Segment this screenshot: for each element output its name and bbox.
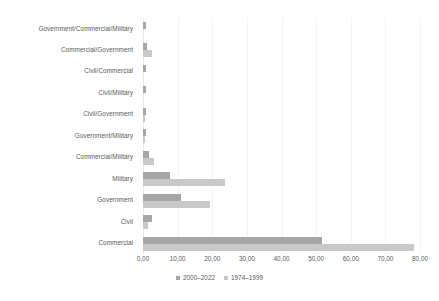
legend-item[interactable]: 2000–2022 — [176, 275, 215, 281]
category-label-row: Commercial/Government — [0, 39, 138, 60]
x-axis-tick-labels: 0,0010,0020,0030,0040,0050,0060,0070,008… — [143, 256, 420, 268]
plot-wrapper: Government/Commercial/MilitaryCommercial… — [0, 0, 439, 265]
category-label-row: Government/Military — [0, 125, 138, 146]
legend-swatch-icon — [176, 276, 180, 280]
x-tick-label: 50,00 — [308, 256, 324, 262]
category-label-row: Civil — [0, 211, 138, 232]
legend-item[interactable]: 1974–1999 — [224, 275, 263, 281]
category-label-row: Government/Commercial/Military — [0, 18, 138, 39]
bar-series-group — [143, 18, 420, 254]
x-tick-label: 0,00 — [137, 256, 149, 262]
bar-row — [143, 147, 420, 168]
category-label: Commercial/Government — [61, 47, 133, 53]
category-label-row: Commercial/Military — [0, 147, 138, 168]
category-label: Commercial/Military — [76, 154, 133, 160]
bar-row — [143, 82, 420, 103]
legend-swatch-icon — [224, 276, 228, 280]
bar-row — [143, 61, 420, 82]
bar-row — [143, 39, 420, 60]
bar-row — [143, 211, 420, 232]
bar-series-b[interactable] — [143, 244, 414, 251]
bar-row — [143, 125, 420, 146]
bar-series-a[interactable] — [143, 129, 146, 136]
x-tick-label: 70,00 — [377, 256, 393, 262]
x-tick-label: 30,00 — [239, 256, 255, 262]
category-label: Commercial — [98, 240, 133, 246]
category-label-row: Civil/Military — [0, 82, 138, 103]
bar-series-b[interactable] — [143, 222, 148, 229]
bar-series-b[interactable] — [143, 158, 154, 165]
bar-row — [143, 233, 420, 254]
bar-series-a[interactable] — [143, 215, 152, 222]
legend-label: 1974–1999 — [231, 275, 263, 281]
category-label: Government/Military — [75, 133, 133, 139]
bar-series-b[interactable] — [143, 201, 210, 208]
x-tick-label: 10,00 — [170, 256, 186, 262]
category-axis-labels: Government/Commercial/MilitaryCommercial… — [0, 18, 138, 254]
bar-series-b[interactable] — [143, 115, 145, 122]
bar-series-b[interactable] — [143, 179, 225, 186]
bar-row — [143, 104, 420, 125]
category-label: Civil/Government — [83, 111, 133, 117]
bar-series-a[interactable] — [143, 237, 322, 244]
bar-series-a[interactable] — [143, 108, 146, 115]
bar-chart: Government/Commercial/MilitaryCommercial… — [0, 0, 439, 301]
x-tick-label: 80,00 — [412, 256, 428, 262]
category-label-row: Military — [0, 168, 138, 189]
chart-legend: 2000–20221974–1999 — [0, 275, 439, 281]
gridline — [420, 18, 421, 254]
x-tick-label: 60,00 — [343, 256, 359, 262]
bar-series-b[interactable] — [143, 50, 152, 57]
bar-series-a[interactable] — [143, 172, 170, 179]
category-label-row: Government — [0, 190, 138, 211]
bar-series-a[interactable] — [143, 86, 146, 93]
x-tick-label: 40,00 — [274, 256, 290, 262]
category-label-row: Civil/Commercial — [0, 61, 138, 82]
bar-series-a[interactable] — [143, 43, 147, 50]
category-label: Military — [112, 176, 133, 182]
bar-row — [143, 190, 420, 211]
category-label-row: Civil/Government — [0, 104, 138, 125]
category-label: Civil/Military — [98, 90, 133, 96]
bar-row — [143, 168, 420, 189]
bar-series-a[interactable] — [143, 65, 146, 72]
category-label-row: Commercial — [0, 233, 138, 254]
category-label: Civil — [121, 219, 133, 225]
legend-label: 2000–2022 — [183, 275, 215, 281]
bar-row — [143, 18, 420, 39]
bar-series-a[interactable] — [143, 194, 181, 201]
bar-series-b[interactable] — [143, 136, 145, 143]
category-label: Civil/Commercial — [84, 68, 133, 74]
category-label: Government — [97, 197, 133, 203]
category-label: Government/Commercial/Military — [38, 26, 133, 32]
x-tick-label: 20,00 — [204, 256, 220, 262]
bar-series-a[interactable] — [143, 22, 146, 29]
plot-area — [143, 18, 420, 254]
bar-series-a[interactable] — [143, 151, 149, 158]
